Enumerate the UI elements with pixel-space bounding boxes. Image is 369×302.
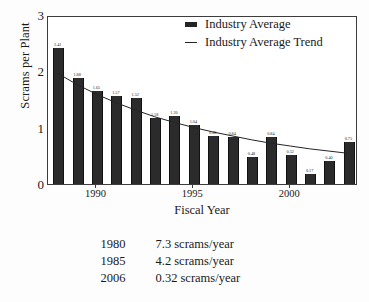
bar-value-label: 0.84	[228, 132, 235, 136]
bar-value-label: 1.57	[112, 91, 119, 95]
y-tick-label: 2	[28, 65, 44, 78]
scrams-per-plant-chart: Scrams per Plant 0123 2.411.881.651.571.…	[0, 0, 369, 228]
line-swatch-icon	[185, 42, 197, 43]
bar-value-label: 0.17	[306, 169, 313, 173]
bar-value-label: 0.86	[209, 131, 216, 135]
bar-value-label: 0.40	[325, 156, 332, 160]
x-tick-label: 1995	[182, 188, 203, 199]
bar-swatch-icon	[185, 22, 197, 27]
footnote-value: 7.3 scrams/year	[156, 236, 306, 253]
bar-value-label: 1.88	[73, 73, 80, 77]
legend-label: Industry Average Trend	[205, 35, 323, 50]
bar-value-label: 2.41	[54, 43, 61, 47]
bar-value-label: 1.20	[170, 111, 177, 115]
legend-label: Industry Average	[205, 17, 291, 32]
y-tick-label: 3	[28, 9, 44, 22]
bar-value-label: 1.04	[190, 120, 197, 124]
x-tick-label: 1990	[85, 188, 106, 199]
bar-value-label: 0.48	[248, 152, 255, 156]
footnote-year: 2006	[64, 270, 156, 287]
legend-item-industry-average-trend: Industry Average Trend	[185, 35, 323, 50]
chart-legend: Industry Average Industry Average Trend	[185, 17, 323, 50]
footnote-value: 0.32 scrams/year	[156, 270, 306, 287]
bar-value-label: 0.84	[267, 132, 274, 136]
bar-value-label: 1.65	[93, 86, 100, 90]
legend-item-industry-average: Industry Average	[185, 17, 323, 32]
bar-value-label: 0.52	[287, 150, 294, 154]
y-axis-ticks: 0123	[24, 0, 44, 228]
y-tick-label: 0	[28, 178, 44, 191]
footnote-value: 4.2 scrams/year	[156, 253, 306, 270]
bar-value-label: 1.52	[132, 93, 139, 97]
bar-value-label: 1.18	[151, 113, 158, 117]
x-axis-ticks: 199019952000	[47, 188, 357, 204]
footnote-year: 1980	[64, 236, 156, 253]
footnote-table: 19807.3 scrams/year19854.2 scrams/year20…	[0, 236, 369, 287]
footnote-row: 19807.3 scrams/year	[0, 236, 369, 253]
y-tick-label: 1	[28, 122, 44, 135]
chart-page: Scrams per Plant 0123 2.411.881.651.571.…	[0, 0, 369, 302]
footnote-row: 19854.2 scrams/year	[0, 253, 369, 270]
x-axis-title: Fiscal Year	[47, 203, 357, 218]
x-tick-label: 2000	[279, 188, 300, 199]
footnote-row: 20060.32 scrams/year	[0, 270, 369, 287]
bar-value-label: 0.75	[345, 137, 352, 141]
footnote-year: 1985	[64, 253, 156, 270]
